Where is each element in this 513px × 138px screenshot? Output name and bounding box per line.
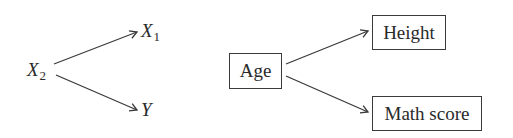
node-x1-subscript: 1: [154, 29, 161, 44]
node-y-base: Y: [141, 99, 152, 120]
node-x1-base: X: [141, 20, 153, 41]
node-x1: X1: [141, 21, 160, 43]
node-age: Age: [229, 53, 282, 89]
node-age-label: Age: [240, 60, 272, 82]
arrow-x2-to-y: [56, 75, 137, 110]
arrow-age-to-height: [286, 31, 368, 64]
arrow-x2-to-x1: [54, 32, 137, 64]
arrow-age-to-math-score: [286, 76, 368, 112]
node-x2: X2: [27, 60, 46, 82]
node-x2-subscript: 2: [40, 68, 47, 83]
node-height: Height: [372, 15, 446, 50]
node-height-label: Height: [383, 22, 435, 44]
node-x2-base: X: [27, 59, 39, 80]
node-math-score-label: Math score: [385, 103, 470, 125]
node-y: Y: [141, 100, 152, 119]
node-math-score: Math score: [372, 96, 482, 131]
